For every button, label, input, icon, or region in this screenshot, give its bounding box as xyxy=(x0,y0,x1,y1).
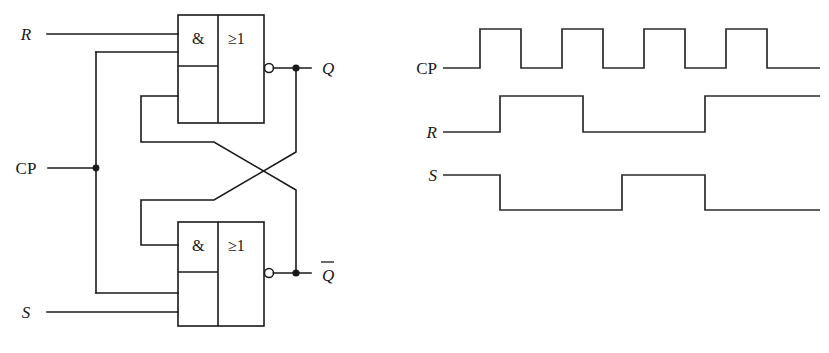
label-waveform-r: R xyxy=(426,123,438,142)
waveform-s xyxy=(443,175,820,210)
figure-root: & ≥1 & ≥1 xyxy=(0,0,829,353)
label-waveform-cp: CP xyxy=(416,59,437,78)
label-r-input: R xyxy=(20,25,32,44)
gate-top-inverting-bubble xyxy=(265,64,274,73)
gate-bottom-inverting-bubble xyxy=(265,269,274,278)
gate-top-or-symbol: ≥1 xyxy=(228,30,245,47)
label-q-output: Q xyxy=(322,59,334,78)
circuit-schematic: & ≥1 & ≥1 xyxy=(16,15,335,326)
gate-bottom-and-symbol: & xyxy=(192,237,205,254)
gate-bottom-or-symbol: ≥1 xyxy=(228,237,245,254)
label-qbar-output: Q xyxy=(322,266,334,285)
gate-top-body xyxy=(178,15,264,123)
label-cp-input: CP xyxy=(16,159,37,178)
label-qbar-output-group: Q xyxy=(321,262,334,285)
gate-bottom-body xyxy=(178,222,264,326)
label-s-input: S xyxy=(22,303,31,322)
gate-top: & ≥1 xyxy=(178,15,274,123)
waveform-cp xyxy=(443,29,820,68)
gate-bottom: & ≥1 xyxy=(178,222,274,326)
junction-dot-cp xyxy=(93,165,100,172)
label-waveform-s: S xyxy=(429,166,438,185)
figure-svg: & ≥1 & ≥1 xyxy=(0,0,829,353)
gate-top-and-symbol: & xyxy=(192,30,205,47)
waveform-r xyxy=(443,96,820,132)
timing-diagram: CP R S xyxy=(416,29,820,210)
